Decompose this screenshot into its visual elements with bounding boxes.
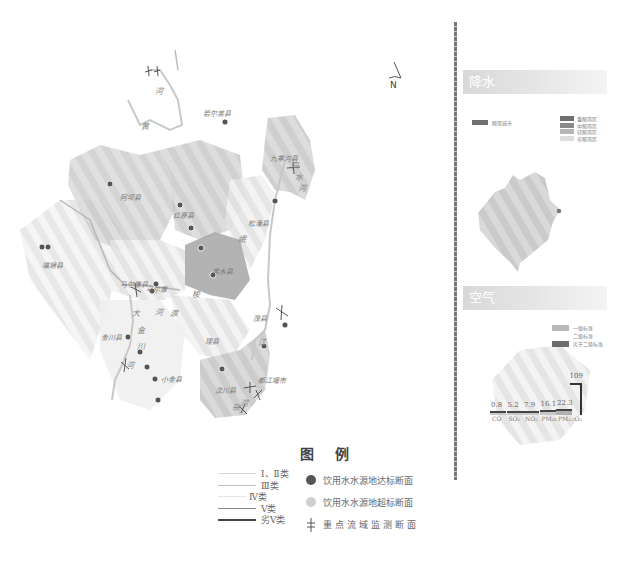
air-legend-label: 二级标准: [573, 332, 593, 339]
acid-rain-city-label: 酸雨城市: [492, 119, 512, 126]
county-label: 壤塘县: [42, 260, 63, 270]
water-quality-line-swatch: [218, 473, 256, 474]
water-source-ok-icon: [306, 475, 316, 485]
precip-legend-swatch: [560, 129, 574, 134]
county-label: 汶川县: [215, 385, 236, 395]
precip-legend-swatch: [560, 123, 574, 128]
chart-value-label: 16.1: [541, 400, 557, 408]
air-header: 空气: [463, 286, 607, 310]
chart-category-label: NO₂: [525, 415, 538, 422]
monitoring-section-icon: [306, 517, 316, 527]
river-label: 黄: [141, 120, 149, 131]
chart-category-label: PM₁₀: [542, 415, 557, 422]
river-label: 河: [126, 359, 134, 370]
air-legend-label: 一级标准: [573, 324, 593, 331]
county-label: 红原县: [173, 210, 194, 220]
water-quality-label: 劣Ⅴ类: [261, 513, 286, 526]
legend-title: 图 例: [300, 443, 357, 463]
county-label: 理县: [205, 336, 219, 346]
symbol-legend-label: 重点流域监测断面: [323, 518, 419, 531]
county-label: 松潘县: [248, 218, 269, 228]
chart-value-label: 0.8: [491, 401, 502, 409]
precip-legend-swatch: [560, 136, 574, 141]
chart-value-label: 5.2: [508, 401, 519, 409]
north-arrow: N: [388, 60, 410, 96]
yellow-river: [128, 70, 182, 130]
county-label: 马尔康: [146, 284, 167, 294]
precip-legend-label: 非酸雨区: [577, 135, 597, 142]
air-legend-swatch: [552, 325, 569, 331]
river-label: 河: [155, 306, 163, 317]
river-label: 河: [298, 182, 306, 193]
river-label: 渡: [170, 307, 178, 318]
panel-divider: [454, 22, 457, 480]
river-label: 金: [137, 324, 145, 335]
chart-bar: [570, 383, 582, 415]
river-label: 杂: [232, 401, 240, 412]
county-label: 若尔盖县: [203, 108, 231, 118]
chart-value-label: 7.9: [524, 401, 535, 409]
precip-legend-swatch: [560, 116, 574, 121]
county-label: 小金县: [161, 374, 182, 384]
water-quality-line-swatch: [218, 519, 256, 521]
symbol-legend-label: 饮用水水源地超标断面: [323, 496, 413, 509]
north-river: [175, 50, 178, 70]
air-legend-label: 劣于二级标准: [573, 340, 603, 347]
chart-category-label: PM₂.₅: [558, 415, 575, 422]
river-label: 梭: [192, 288, 200, 299]
water-quality-line-swatch: [218, 496, 246, 497]
precipitation-header: 降水: [463, 70, 607, 94]
county-label: 马尔康县: [120, 279, 148, 289]
river-label: 岷: [238, 233, 246, 244]
north-label: N: [390, 80, 397, 90]
chart-category-label: SO₂: [509, 415, 520, 422]
river-label: 河: [240, 397, 248, 408]
county-label: 都江堰市: [258, 375, 286, 385]
water-source-exceed-icon: [306, 497, 316, 507]
county-label: 茂县: [253, 313, 267, 323]
precip-region-shape: [478, 172, 560, 272]
chart-value-label: 109: [570, 372, 583, 380]
river-label: 川: [137, 340, 145, 351]
chart-category-label: CO: [492, 415, 502, 422]
river-label: 河: [155, 85, 163, 96]
county-label: 阿坝县: [120, 192, 141, 202]
symbol-legend-label: 饮用水水源地达标断面: [323, 474, 413, 487]
air-legend-swatch: [552, 341, 569, 347]
acid-rain-city-swatch: [472, 120, 488, 125]
river-label: 水: [295, 171, 303, 182]
water-quality-line-swatch: [218, 485, 256, 486]
county-label: 黑水县: [212, 266, 233, 276]
river-label: 江: [258, 336, 266, 347]
chart-category-label: O₃: [575, 415, 582, 422]
water-quality-line-swatch: [218, 508, 256, 509]
river-label: 大: [132, 307, 140, 318]
county-label: 金川县: [101, 332, 122, 342]
river-label: 白: [291, 159, 299, 170]
